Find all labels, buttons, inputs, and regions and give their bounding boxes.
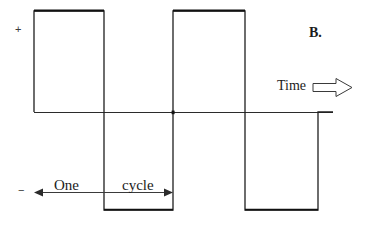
negative-axis-label: −	[18, 185, 24, 196]
time-direction-arrow-icon	[313, 79, 352, 97]
one-cycle-label-word-one: One	[54, 178, 79, 193]
panel-identifier-label: B.	[309, 26, 322, 40]
figure-canvas: + − One cycle Time B.	[0, 0, 367, 227]
zero-crossing-marker	[172, 111, 175, 115]
one-cycle-label-word-cycle: cycle	[122, 178, 154, 193]
positive-axis-label: +	[15, 24, 21, 35]
time-axis-label: Time	[277, 79, 306, 93]
